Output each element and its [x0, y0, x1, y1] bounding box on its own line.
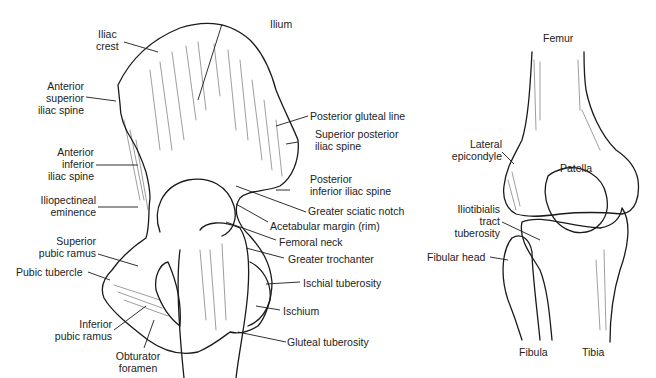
label-ilium: Ilium: [270, 18, 292, 30]
label-femur: Femur: [543, 32, 573, 44]
label-iliopectineal-eminence: Iliopectineal eminence: [14, 194, 96, 218]
label-line: crest: [96, 40, 119, 52]
label-line: eminence: [14, 206, 96, 218]
label-ischium: Ischium: [283, 305, 319, 317]
label-aiis: Anterior inferior iliac spine: [22, 146, 94, 182]
label-line: Superior: [14, 235, 96, 247]
label-fibular-head: Fibular head: [427, 251, 485, 263]
label-superior-pubic-ramus: Superior pubic ramus: [14, 235, 96, 259]
label-line: Superior posterior: [315, 128, 398, 140]
tibia-outline: [521, 208, 628, 342]
label-line: Iliotibialis: [440, 203, 500, 215]
label-obturator-foramen: Obturator foramen: [108, 350, 168, 374]
label-line: inferior: [22, 158, 94, 170]
label-line: inferior iliac spine: [310, 185, 391, 197]
label-line: Obturator: [108, 350, 168, 362]
label-posterior-gluteal-line: Posterior gluteal line: [310, 110, 405, 122]
label-line: pubic ramus: [14, 247, 96, 259]
label-line: iliac spine: [22, 170, 94, 182]
label-gluteal-tuberosity: Gluteal tuberosity: [287, 336, 369, 348]
label-greater-trochanter: Greater trochanter: [288, 253, 374, 265]
anatomy-figure: Iliac crest Ilium Anterior superior ilia…: [0, 0, 656, 378]
label-asis: Anterior superior iliac spine: [12, 80, 84, 116]
label-line: tract: [440, 215, 500, 227]
label-iliac-crest: Iliac crest: [96, 28, 119, 52]
label-line: tuberosity: [440, 227, 500, 239]
label-psis: Superior posterior iliac spine: [315, 128, 398, 152]
label-line: epicondyle: [440, 150, 502, 162]
femur-shaft: [200, 223, 249, 378]
label-line: superior: [12, 92, 84, 104]
label-line: Anterior: [12, 80, 84, 92]
label-acetabular-margin: Acetabular margin (rim): [270, 220, 380, 232]
label-femoral-neck: Femoral neck: [279, 236, 343, 248]
label-line: Posterior: [310, 173, 391, 185]
label-line: iliac spine: [315, 140, 398, 152]
label-line: iliac spine: [12, 104, 84, 116]
label-line: Iliac: [96, 28, 119, 40]
label-pubic-tubercle: Pubic tubercle: [16, 266, 83, 278]
femur-outline: [504, 52, 639, 216]
label-iliotibialis-tract-tuberosity: Iliotibialis tract tuberosity: [440, 203, 500, 239]
label-line: Iliopectineal: [14, 194, 96, 206]
label-line: Inferior: [40, 318, 112, 330]
femoral-head: [157, 179, 235, 236]
obturator-foramen: [156, 262, 181, 326]
label-ischial-tuberosity: Ischial tuberosity: [303, 277, 381, 289]
label-line: Lateral: [440, 138, 502, 150]
patella-outline: [545, 168, 607, 233]
label-line: foramen: [108, 362, 168, 374]
label-inferior-pubic-ramus: Inferior pubic ramus: [40, 318, 112, 342]
label-fibula: Fibula: [519, 346, 548, 358]
fibula-outline: [503, 236, 540, 340]
label-lateral-epicondyle: Lateral epicondyle: [440, 138, 502, 162]
label-line: pubic ramus: [40, 330, 112, 342]
label-greater-sciatic-notch: Greater sciatic notch: [308, 205, 404, 217]
label-line: Anterior: [22, 146, 94, 158]
label-patella: Patella: [560, 162, 592, 174]
label-piis: Posterior inferior iliac spine: [310, 173, 391, 197]
label-tibia: Tibia: [582, 346, 604, 358]
